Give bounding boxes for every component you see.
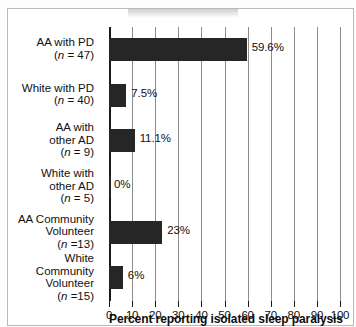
bar (109, 266, 123, 289)
category-label: AA withother AD(n = 9) (2, 121, 94, 159)
category-label: AA CommunityVolunteer(n =13) (2, 213, 94, 251)
category-sample-size: (n = 5) (2, 192, 94, 205)
category-sample-size: (n =13) (2, 238, 94, 251)
category-label-line: White with (2, 167, 94, 180)
bar-value-label: 6% (128, 269, 144, 281)
x-tick-70 (271, 301, 272, 307)
category-label: White withother AD(n = 5) (2, 167, 94, 205)
category-sample-size: (n = 9) (2, 146, 94, 159)
bar-row: 6% (109, 255, 340, 301)
bar (109, 38, 247, 61)
bar-row: 11.1% (109, 118, 340, 164)
bar-value-label: 11.1% (140, 132, 171, 144)
category-label: White with PD(n = 40) (2, 82, 94, 107)
x-tick-90 (317, 301, 318, 307)
figure-container: 59.6%7.5%11.1%0%23%6% 010203040506070809… (0, 0, 356, 327)
category-label-line: AA Community (2, 213, 94, 226)
category-label-line: Volunteer (2, 277, 94, 290)
category-label-line: other AD (2, 134, 94, 147)
gridline-100 (340, 27, 341, 301)
category-label: WhiteCommunityVolunteer(n =15) (2, 252, 94, 302)
category-label-line: other AD (2, 180, 94, 193)
category-label-line: AA with (2, 121, 94, 134)
x-tick-80 (294, 301, 295, 307)
category-label-line: Volunteer (2, 225, 94, 238)
category-sample-size: (n = 47) (2, 49, 94, 62)
x-tick-20 (155, 301, 156, 307)
plot-area: 59.6%7.5%11.1%0%23%6% (109, 27, 340, 301)
category-label: AA with PD(n = 47) (2, 36, 94, 61)
x-tick-10 (132, 301, 133, 307)
bar (109, 84, 126, 107)
category-label-line: AA with PD (2, 36, 94, 49)
x-tick-30 (178, 301, 179, 307)
x-tick-0 (109, 301, 110, 307)
bar (109, 221, 162, 244)
x-tick-40 (201, 301, 202, 307)
bar (109, 129, 135, 152)
category-label-line: White with PD (2, 82, 94, 95)
category-label-line: Community (2, 265, 94, 278)
bar-row: 23% (109, 210, 340, 256)
figure-frame: 59.6%7.5%11.1%0%23%6% 010203040506070809… (7, 8, 354, 326)
scan-artifact (128, 9, 238, 18)
x-tick-60 (248, 301, 249, 307)
bar (109, 175, 111, 198)
bar-value-label: 0% (114, 178, 130, 190)
bar-value-label: 23% (167, 224, 190, 236)
bar-row: 0% (109, 164, 340, 210)
x-tick-50 (225, 301, 226, 307)
category-label-line: White (2, 252, 94, 265)
bar-value-label: 59.6% (252, 41, 284, 53)
x-axis-title: Percent reporting isolated sleep paralys… (109, 312, 340, 326)
bar-row: 7.5% (109, 73, 340, 119)
bar-value-label: 7.5% (131, 87, 157, 99)
x-tick-100 (340, 301, 341, 307)
category-sample-size: (n =15) (2, 290, 94, 303)
category-sample-size: (n = 40) (2, 94, 94, 107)
bar-row: 59.6% (109, 27, 340, 73)
